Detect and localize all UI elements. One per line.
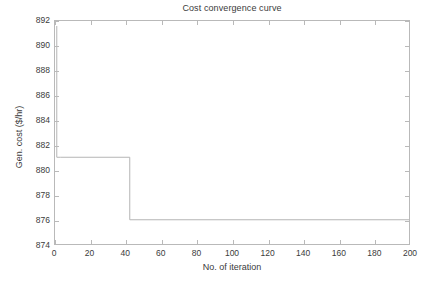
x-tick-label: 120 bbox=[261, 248, 275, 258]
plot-area bbox=[54, 20, 410, 245]
x-tick-mark bbox=[340, 21, 341, 25]
x-tick-label: 180 bbox=[367, 248, 381, 258]
cost-convergence-line bbox=[57, 26, 410, 220]
y-tick-mark bbox=[405, 121, 409, 122]
y-tick-mark bbox=[405, 46, 409, 47]
y-tick-mark bbox=[405, 71, 409, 72]
x-tick-mark bbox=[304, 21, 305, 25]
x-tick-mark bbox=[269, 240, 270, 244]
x-tick-mark bbox=[304, 240, 305, 244]
x-tick-mark bbox=[375, 240, 376, 244]
y-tick-mark bbox=[55, 46, 59, 47]
x-tick-label: 40 bbox=[120, 248, 129, 258]
x-tick-mark bbox=[126, 240, 127, 244]
x-tick-label: 200 bbox=[403, 248, 417, 258]
y-tick-mark bbox=[55, 21, 59, 22]
y-tick-label: 880 bbox=[22, 165, 50, 175]
y-tick-mark bbox=[405, 146, 409, 147]
x-tick-label: 140 bbox=[296, 248, 310, 258]
y-tick-label: 888 bbox=[22, 65, 50, 75]
data-series-svg bbox=[55, 21, 410, 245]
x-tick-label: 80 bbox=[192, 248, 201, 258]
y-tick-label: 878 bbox=[22, 190, 50, 200]
y-tick-mark bbox=[55, 196, 59, 197]
y-tick-mark bbox=[55, 221, 59, 222]
x-tick-mark bbox=[162, 240, 163, 244]
y-tick-mark bbox=[55, 146, 59, 147]
x-tick-label: 160 bbox=[332, 248, 346, 258]
x-tick-mark bbox=[91, 21, 92, 25]
x-tick-label: 60 bbox=[156, 248, 165, 258]
y-tick-mark bbox=[55, 96, 59, 97]
x-tick-mark bbox=[91, 240, 92, 244]
x-tick-mark bbox=[126, 21, 127, 25]
x-tick-mark bbox=[375, 21, 376, 25]
y-tick-label: 886 bbox=[22, 90, 50, 100]
y-tick-label: 892 bbox=[22, 15, 50, 25]
x-tick-label: 100 bbox=[225, 248, 239, 258]
y-tick-label: 882 bbox=[22, 140, 50, 150]
y-tick-mark bbox=[405, 21, 409, 22]
y-tick-mark bbox=[405, 221, 409, 222]
y-tick-label: 890 bbox=[22, 40, 50, 50]
chart-title: Cost convergence curve bbox=[54, 3, 410, 13]
x-tick-mark bbox=[233, 21, 234, 25]
y-tick-label: 876 bbox=[22, 215, 50, 225]
y-tick-label: 874 bbox=[22, 240, 50, 250]
x-tick-label: 20 bbox=[85, 248, 94, 258]
y-tick-label: 884 bbox=[22, 115, 50, 125]
y-tick-mark bbox=[55, 71, 59, 72]
y-tick-mark bbox=[55, 121, 59, 122]
x-tick-mark bbox=[197, 21, 198, 25]
y-tick-mark bbox=[405, 196, 409, 197]
x-tick-mark bbox=[55, 240, 56, 244]
y-tick-mark bbox=[405, 171, 409, 172]
x-axis-title: No. of iteration bbox=[54, 262, 410, 272]
x-tick-mark bbox=[233, 240, 234, 244]
x-tick-mark bbox=[162, 21, 163, 25]
y-tick-mark bbox=[405, 96, 409, 97]
x-tick-label: 0 bbox=[52, 248, 57, 258]
x-tick-mark bbox=[197, 240, 198, 244]
x-tick-mark bbox=[340, 240, 341, 244]
x-tick-mark bbox=[269, 21, 270, 25]
y-tick-mark bbox=[55, 171, 59, 172]
chart-figure: Cost convergence curve No. of iteration … bbox=[0, 0, 428, 289]
